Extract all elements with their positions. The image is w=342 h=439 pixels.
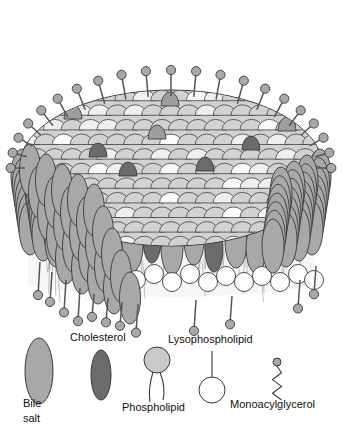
lipid-scale — [16, 105, 39, 115]
legend-symbol-bile-salt — [25, 338, 53, 404]
lysophospholipid-head — [115, 321, 124, 330]
legend-symbol-cholesterol — [91, 350, 111, 400]
lysophospholipid-head — [53, 94, 62, 103]
lysophospholipid-head — [14, 133, 23, 142]
lipid-scale — [0, 207, 13, 217]
lysophospholipid-head — [94, 76, 103, 85]
lysophospholipid-head — [225, 320, 234, 329]
legend-label-phospholipid: Phospholipid — [122, 401, 185, 414]
lysophospholipid-head — [163, 273, 182, 292]
lipid-scale — [25, 90, 48, 101]
lysophospholipid-head — [6, 163, 15, 172]
legend-item-phospholipid — [144, 347, 170, 402]
lipid-scale — [294, 90, 317, 101]
lysophospholipid-head — [117, 70, 126, 79]
lysophospholipid-head — [325, 148, 334, 157]
lipid-scale — [303, 105, 326, 115]
lysophospholipid-head — [8, 148, 17, 157]
legend-item-monoacylglycerol — [273, 358, 282, 400]
lysophospholipid-head — [72, 84, 81, 93]
lysophospholipid-head — [271, 273, 290, 292]
lipid-scale — [0, 105, 22, 115]
lipid-scale — [0, 119, 13, 129]
legend-label-monoacylglycerol: Monoacylglycerol — [230, 398, 315, 411]
micelle-figure: Bile saltCholesterolPhospholipidLysophos… — [0, 0, 342, 439]
lysophospholipid-head — [131, 328, 140, 337]
lysophospholipid-head — [199, 273, 218, 292]
lysophospholipid-head — [309, 290, 318, 299]
legend-label-lysophospholipid: Lysophospholipid — [168, 333, 253, 346]
bile-salt-ellipse — [262, 219, 284, 273]
lysophospholipid-head — [216, 70, 225, 79]
lysophospholipid-head — [59, 308, 68, 317]
lysophospholipid-head — [101, 318, 110, 327]
lipid-scale — [0, 90, 13, 101]
lysophospholipid-head — [37, 106, 46, 115]
lysophospholipid-head — [235, 273, 254, 292]
lysophospholipid-head — [280, 94, 289, 103]
lipid-scale — [8, 90, 31, 101]
monoacylglycerol-chain — [273, 366, 282, 400]
lysophospholipid-head — [166, 65, 175, 74]
lysophospholipid-head — [141, 67, 150, 76]
lysophospholipid-head — [73, 317, 82, 326]
legend-label-cholesterol: Cholesterol — [70, 331, 126, 344]
micelle-illustration — [0, 0, 342, 439]
lysophospholipid-head — [192, 67, 201, 76]
legend — [25, 338, 282, 404]
legend-item-cholesterol — [91, 350, 111, 400]
lysophospholipid-head — [261, 84, 270, 93]
lipid-scale — [312, 90, 335, 101]
lysophospholipid-head — [296, 106, 305, 115]
lysophospholipid-head — [45, 297, 54, 306]
lipid-scale — [320, 105, 342, 115]
lysophospholipid-head — [145, 265, 164, 284]
lipid-scale — [0, 236, 13, 247]
legend-symbol-lysophospholipid — [199, 377, 225, 403]
legend-item-lysophospholipid — [199, 351, 225, 403]
lysophospholipid-head — [24, 119, 33, 128]
legend-symbol-phospholipid — [144, 347, 170, 373]
lysophospholipid-head — [327, 163, 336, 172]
lysophospholipid-head — [33, 291, 42, 300]
legend-label-bile-salt: Bile salt — [23, 396, 41, 426]
legend-symbol-monoacylglycerol — [273, 358, 281, 366]
lysophospholipid-head — [319, 133, 328, 142]
lysophospholipid-head — [87, 312, 96, 321]
lysophospholipid-head — [293, 304, 302, 313]
lysophospholipid-head — [309, 119, 318, 128]
phospholipid-tail — [160, 372, 164, 400]
phospholipid-tail — [149, 372, 153, 402]
lysophospholipid-head — [239, 76, 248, 85]
lysophospholipid-head — [217, 267, 236, 286]
legend-item-bile-salt — [25, 338, 53, 404]
lysophospholipid-head — [181, 265, 200, 284]
